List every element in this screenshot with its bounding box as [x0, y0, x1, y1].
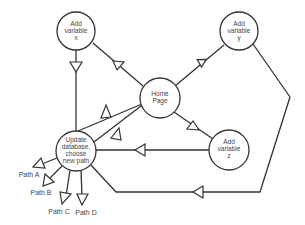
- arrow-path-a-icon: [33, 158, 45, 168]
- node-label-line: Home: [151, 90, 169, 97]
- node-add-z: Add variable z: [209, 130, 249, 170]
- node-label-line: choose: [66, 150, 87, 157]
- arrow-left-loop-icon: [193, 186, 203, 198]
- label-path-b: Path B: [30, 189, 51, 196]
- node-label-line: Add: [223, 138, 235, 145]
- arrow-to-home-icon: [111, 128, 121, 140]
- node-label-line: database,: [62, 143, 91, 150]
- node-label-line: variable: [65, 27, 88, 34]
- edge-to-path-d: [81, 170, 82, 196]
- edge-home-to-add-y: [175, 45, 224, 86]
- node-label-line: Page: [152, 97, 168, 105]
- label-path-a: Path A: [19, 171, 40, 178]
- node-label-line: new path: [63, 157, 90, 165]
- node-label-line: Add: [70, 20, 82, 27]
- node-add-y: Add variable y: [220, 12, 258, 50]
- arrow-path-d-icon: [77, 194, 88, 205]
- edge-to-path-c: [66, 170, 70, 196]
- node-label-line: z: [227, 152, 230, 159]
- edge-to-path-a: [42, 158, 57, 164]
- arrow-path-c-icon: [60, 192, 71, 204]
- flow-diagram: Add variable x Add variable y Home Page …: [0, 0, 305, 225]
- node-update-database: Update database, choose new path: [56, 131, 96, 171]
- node-label-line: variable: [218, 145, 241, 152]
- node-label-line: variable: [228, 27, 251, 34]
- label-path-d: Path D: [75, 209, 96, 216]
- arrowheads: [33, 59, 206, 205]
- edge-to-path-b: [50, 166, 62, 178]
- node-label-line: Add: [233, 20, 245, 27]
- node-add-x: Add variable x: [57, 12, 95, 50]
- arrow-update-line-icon: [101, 105, 111, 118]
- node-home-page: Home Page: [140, 78, 180, 118]
- label-path-c: Path C: [48, 208, 69, 215]
- arrow-down-to-update-icon: [70, 62, 82, 72]
- arrow-left-from-z-icon: [135, 144, 145, 156]
